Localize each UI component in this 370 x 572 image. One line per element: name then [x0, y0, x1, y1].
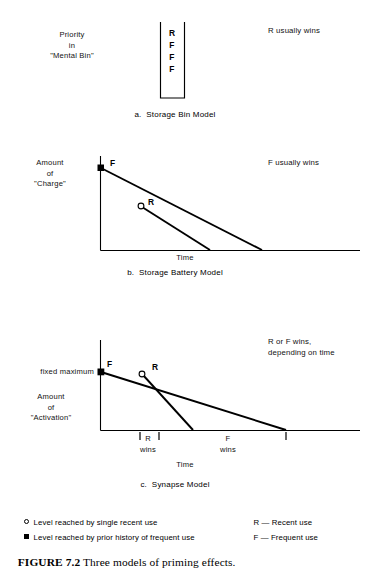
panel-a-note: R usually wins — [268, 26, 368, 37]
panel-c-fixed-maximum-label: fixed maximum — [8, 367, 94, 378]
panel-b-y-axis-label: Amount of "Charge" — [8, 158, 92, 190]
panel-c-caption: c. Synapse Model — [95, 480, 255, 489]
panel-c-x-axis-label: Time — [155, 460, 215, 471]
figure-caption: FIGURE 7.2 Three models of priming effec… — [6, 544, 364, 572]
key-frequent-use-text: F — Frequent use — [254, 533, 318, 542]
panel-c-note: R or F wins, depending on time — [268, 337, 370, 358]
bin-item: R — [160, 28, 184, 40]
panel-c-marker-r-label: R — [152, 362, 158, 372]
panel-c: fixed maximum Amount of "Activation" F R… — [0, 330, 370, 505]
panel-b-caption: b. Storage Battery Model — [80, 268, 270, 277]
panel-c-marker-f-label: F — [107, 359, 112, 369]
panel-a-bin-contents: R F F F — [160, 28, 184, 76]
panel-a: Priority in "Mental Bin" R F F F R usual… — [0, 0, 370, 130]
panel-b-x-axis-label: Time — [155, 253, 215, 264]
figure-caption-label: FIGURE 7.2 — [18, 556, 80, 568]
panel-c-y-axis-label: Amount of "Activation" — [8, 392, 94, 424]
figure-key: Level reached by single recent use R — R… — [0, 505, 370, 541]
key-filled-marker-text: Level reached by prior history of freque… — [34, 533, 195, 542]
panel-c-region-r-label: R wins — [133, 434, 163, 455]
panel-a-caption: a. Storage Bin Model — [95, 110, 255, 119]
bin-item: F — [160, 40, 184, 52]
bin-item: F — [160, 64, 184, 76]
panel-b-marker-f-label: F — [110, 158, 115, 168]
filled-square-marker-icon — [24, 534, 29, 539]
figure-caption-text: Three models of priming effects. — [80, 556, 235, 568]
bin-item: F — [160, 52, 184, 64]
panel-a-axis-label: Priority in "Mental Bin" — [12, 30, 132, 62]
panel-b-marker-r-label: R — [148, 197, 154, 207]
panel-b-note: F usually wins — [268, 158, 368, 169]
panel-c-region-f-label: F wins — [213, 434, 243, 455]
panel-b: Amount of "Charge" F R F usually wins Ti… — [0, 150, 370, 270]
